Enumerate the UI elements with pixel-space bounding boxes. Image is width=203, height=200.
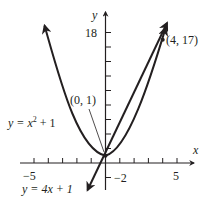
parabola-label: y = x2 + 1 bbox=[7, 115, 56, 130]
tangent-line-label: y = 4x + 1 bbox=[21, 182, 73, 196]
tangent-line bbox=[88, 23, 167, 190]
point-0-1 bbox=[104, 154, 108, 158]
y-axis-label: y bbox=[91, 8, 98, 22]
point-4-17 bbox=[161, 38, 165, 42]
y-tick-label-18: 18 bbox=[85, 26, 97, 40]
x-axis-label: x bbox=[192, 143, 199, 157]
x-tick-label-neg5: −5 bbox=[23, 169, 36, 183]
x-tick-label-5: 5 bbox=[173, 169, 179, 183]
graph: y x 18 −2 −5 5 (4, 17) (0, 1) y = x2 + 1… bbox=[0, 0, 203, 200]
point-label-0-1: (0, 1) bbox=[70, 93, 96, 107]
y-tick-label-neg2: −2 bbox=[114, 171, 127, 185]
point-label-4-17: (4, 17) bbox=[166, 33, 198, 47]
